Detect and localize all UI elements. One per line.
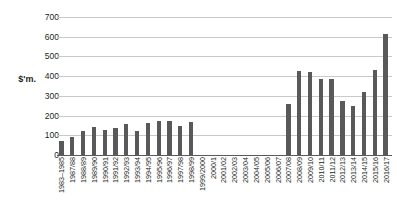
x-axis-tick: 2009/10: [306, 156, 317, 212]
x-axis-tick-label: 2000/1: [210, 157, 217, 179]
x-axis-tick-label: 1991/92: [113, 157, 120, 183]
bar: [286, 104, 290, 155]
bar-chart: $'m. 7006005004003002001000 1983–1985198…: [0, 0, 400, 214]
bar: [92, 127, 96, 155]
x-axis-tick-label: 2014/15: [361, 157, 368, 183]
x-axis-tick: 2011/12: [327, 156, 338, 212]
y-axis-tick-label: 500: [33, 52, 59, 61]
x-axis-tick-label: 2005/06: [264, 157, 271, 183]
bar: [178, 126, 182, 155]
y-axis-tick-label: 700: [33, 13, 59, 22]
x-axis-tick-label: 2002/03: [232, 157, 239, 183]
x-axis-tick-label: 2004/05: [253, 157, 260, 183]
bar: [103, 130, 107, 155]
x-axis-tick-label: 1987/88: [70, 157, 77, 183]
x-axis-tick-label: 1990/91: [102, 157, 109, 183]
x-axis-tick-label: 2003/04: [242, 157, 249, 183]
x-axis-tick: 2001/02: [219, 156, 230, 212]
bar: [297, 71, 301, 155]
x-axis-tick: 2000/1: [208, 156, 219, 212]
x-axis-tick: 1991/92: [111, 156, 122, 212]
x-axis-tick: 1996/97: [165, 156, 176, 212]
bar: [383, 34, 387, 155]
x-axis-tick: 1987/88: [68, 156, 79, 212]
x-axis-tick: 2005/06: [262, 156, 273, 212]
bar: [135, 131, 139, 155]
bar: [146, 123, 150, 155]
bar: [113, 128, 117, 155]
x-axis-tick-label: 1995/96: [156, 157, 163, 183]
x-axis-tick-label: 2015/16: [372, 157, 379, 183]
bar: [189, 122, 193, 156]
x-axis-tick-label: 1998/99: [188, 157, 195, 183]
bar: [59, 141, 63, 155]
x-axis-tick: 2013/14: [349, 156, 360, 212]
x-axis-tick-label: 1988/89: [80, 157, 87, 183]
x-axis-tick: 1999/2000: [197, 156, 208, 212]
x-axis-tick: 1993/94: [133, 156, 144, 212]
y-axis-title: $'m.: [2, 74, 36, 84]
bar: [70, 137, 74, 155]
x-axis-tick-label: 2016/17: [383, 157, 390, 183]
x-axis-tick: 2015/16: [370, 156, 381, 212]
bottom-rule: [0, 213, 400, 214]
x-axis-tick-label: 1994/95: [145, 157, 152, 183]
y-axis-tick-label: 600: [33, 33, 59, 42]
x-axis-tick-label: 2007/08: [286, 157, 293, 183]
x-axis-tick: 2002/03: [230, 156, 241, 212]
x-axis-tick: 1988/89: [79, 156, 90, 212]
x-axis-tick: 2014/15: [360, 156, 371, 212]
x-axis-tick-label: 1997/98: [178, 157, 185, 183]
bar: [319, 79, 323, 155]
x-axis-tick: 2003/04: [241, 156, 252, 212]
x-axis-tick-label: 2009/10: [307, 157, 314, 183]
bar: [81, 131, 85, 155]
x-axis-tick-label: 1983–1985: [59, 157, 66, 193]
y-axis-tick-label: 100: [33, 131, 59, 140]
x-axis-tick-label: 2013/14: [351, 157, 358, 183]
x-axis-tick: 1992/93: [122, 156, 133, 212]
bar: [340, 101, 344, 155]
x-axis-tick-label: 2006/07: [275, 157, 282, 183]
x-axis-tick: 2016/17: [381, 156, 392, 212]
plot-area: [57, 17, 392, 155]
bar: [308, 72, 312, 155]
x-axis-tick: 1983–1985: [57, 156, 68, 212]
x-axis-tick-label: 1993/94: [134, 157, 141, 183]
x-axis-tick-label: 1999/2000: [199, 157, 206, 191]
bar: [157, 121, 161, 155]
x-axis-tick: 2012/13: [338, 156, 349, 212]
y-axis-tick-label: 200: [33, 112, 59, 121]
x-axis-tick: 1998/99: [187, 156, 198, 212]
x-axis-tick-label: 2010/11: [318, 157, 325, 182]
x-axis-tick-label: 1996/97: [167, 157, 174, 183]
y-axis-tick-label: 300: [33, 92, 59, 101]
x-axis-tick: 2010/11: [316, 156, 327, 212]
bar: [373, 70, 377, 155]
x-axis-tick-label: 1992/93: [124, 157, 131, 183]
x-axis-tick: 1995/96: [154, 156, 165, 212]
x-axis-tick-label: 2011/12: [329, 157, 336, 182]
x-axis-tick: 1990/91: [100, 156, 111, 212]
bar-series: [57, 17, 392, 155]
x-axis-tick-labels: 1983–19851987/881988/891989/901990/91199…: [57, 156, 392, 214]
x-axis-tick: 1994/95: [143, 156, 154, 212]
x-axis-tick-label: 2012/13: [340, 157, 347, 183]
x-axis-tick: 2008/09: [295, 156, 306, 212]
x-axis-tick: 2007/08: [284, 156, 295, 212]
y-axis-tick-label: 400: [33, 72, 59, 81]
x-axis-tick-label: 1989/90: [91, 157, 98, 183]
x-axis-tick: 2006/07: [273, 156, 284, 212]
bar: [362, 92, 366, 155]
bar: [351, 106, 355, 155]
bar: [329, 79, 333, 155]
x-axis-tick-label: 2001/02: [221, 157, 228, 183]
x-axis-tick: 1997/98: [176, 156, 187, 212]
bar: [124, 124, 128, 155]
x-axis-tick-label: 2008/09: [297, 157, 304, 183]
x-axis-tick: 2004/05: [252, 156, 263, 212]
y-axis-tick-label: 0: [33, 151, 59, 160]
x-axis-tick: 1989/90: [89, 156, 100, 212]
bar: [167, 121, 171, 155]
